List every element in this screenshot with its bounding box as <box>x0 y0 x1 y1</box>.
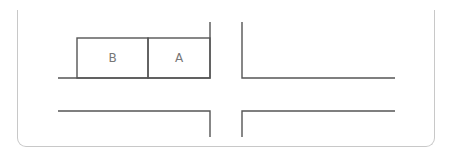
lower-right-road-edge <box>242 111 395 137</box>
upper-left-block: B A <box>58 22 210 78</box>
intersection-diagram: B A <box>0 0 453 153</box>
space-b-label: B <box>108 51 116 65</box>
upper-right-road-edge <box>242 22 395 78</box>
upper-left-road-edge <box>58 22 210 78</box>
lower-left-road-edge <box>58 111 210 137</box>
space-a-label: A <box>175 51 184 65</box>
